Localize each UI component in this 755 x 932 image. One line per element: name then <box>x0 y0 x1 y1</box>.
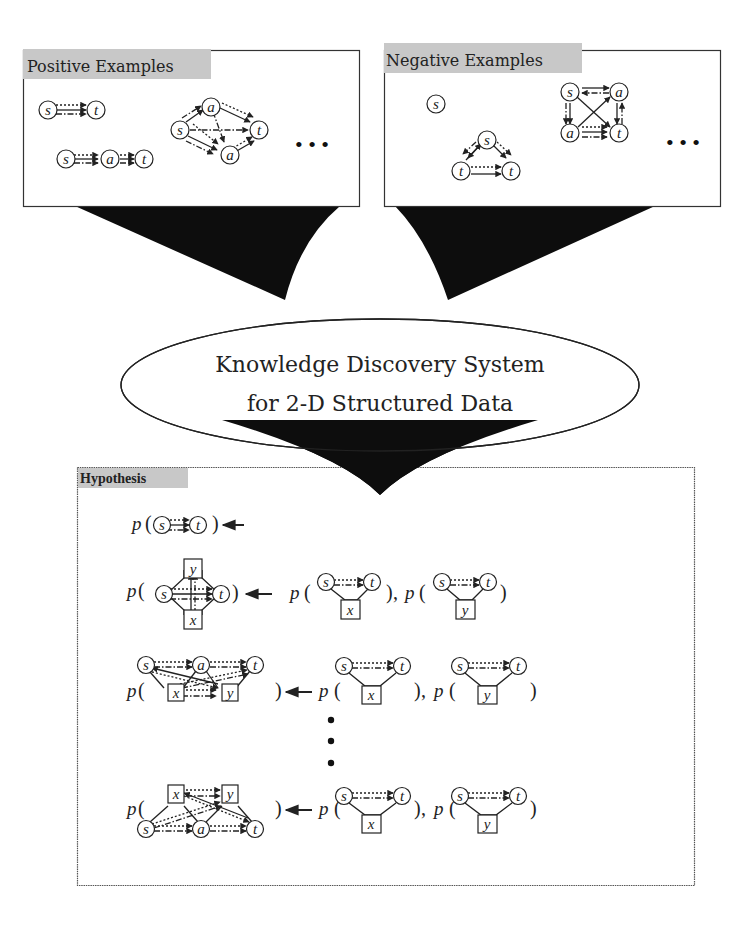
svg-text:,: , <box>421 679 426 701</box>
svg-text:): ) <box>530 679 537 702</box>
svg-text:(: ( <box>419 581 426 604</box>
svg-text:p: p <box>432 798 444 819</box>
svg-text:p: p <box>317 680 329 701</box>
svg-text:(: ( <box>138 797 145 820</box>
svg-text:(: ( <box>138 679 145 702</box>
svg-text:s: s <box>143 821 149 837</box>
svg-text:y: y <box>225 685 234 701</box>
svg-text:x: x <box>367 687 375 703</box>
svg-text:s: s <box>161 586 167 602</box>
svg-text:s: s <box>159 517 165 533</box>
svg-text:y: y <box>225 786 234 802</box>
hypothesis-title: Hypothesis <box>80 471 147 486</box>
system-title-line2: for 2-D Structured Data <box>247 391 513 416</box>
svg-text:y: y <box>482 816 491 832</box>
svg-text:p: p <box>125 680 137 701</box>
svg-text:): ) <box>275 679 282 702</box>
svg-text:s: s <box>433 96 439 112</box>
svg-text:(: ( <box>449 679 456 702</box>
negative-example-1: s <box>427 95 445 113</box>
hypothesis-rule-3: p ( s a t x y ) p ( s t <box>125 657 537 705</box>
svg-text:a: a <box>566 125 574 141</box>
svg-text:s: s <box>323 574 329 590</box>
positive-example-2: s a t <box>57 150 153 168</box>
svg-text:): ) <box>500 581 507 604</box>
svg-text:s: s <box>457 788 463 804</box>
svg-text:): ) <box>530 797 537 820</box>
svg-text:(: ( <box>138 579 145 602</box>
svg-text:s: s <box>341 788 347 804</box>
svg-text:p: p <box>125 798 137 819</box>
svg-text:,: , <box>393 581 398 603</box>
left-funnel <box>75 206 340 300</box>
svg-text:y: y <box>188 561 197 577</box>
negative-ellipsis: • • • <box>666 130 700 155</box>
svg-text:): ) <box>212 512 219 535</box>
svg-text:s: s <box>63 151 69 167</box>
svg-text:): ) <box>232 581 239 604</box>
svg-text:s: s <box>143 657 149 673</box>
svg-text:y: y <box>482 687 491 703</box>
diagram-canvas: Positive Examples s t s a t <box>0 0 755 932</box>
positive-title: Positive Examples <box>27 57 174 76</box>
svg-text:p: p <box>288 582 300 603</box>
bottom-funnel-tip <box>222 420 538 495</box>
svg-text:p: p <box>317 798 329 819</box>
svg-text:a: a <box>197 657 205 673</box>
svg-text:): ) <box>386 581 393 604</box>
right-funnel <box>395 206 655 300</box>
svg-text:s: s <box>457 658 463 674</box>
svg-text:a: a <box>226 147 234 163</box>
positive-examples-panel: Positive Examples s t s a t <box>23 49 360 207</box>
svg-text:a: a <box>207 99 215 115</box>
svg-text:x: x <box>346 602 354 618</box>
svg-text:x: x <box>367 816 375 832</box>
negative-title: Negative Examples <box>386 51 543 70</box>
svg-text:y: y <box>460 602 469 618</box>
svg-text:a: a <box>615 84 623 100</box>
positive-ellipsis: • • • <box>295 132 329 157</box>
svg-text:(: ( <box>334 679 341 702</box>
svg-text:p: p <box>130 513 142 534</box>
svg-text:,: , <box>421 797 426 819</box>
svg-text:): ) <box>414 679 421 702</box>
negative-examples-panel: Negative Examples s s t t <box>384 43 721 207</box>
svg-text:): ) <box>414 797 421 820</box>
system-title-line1: Knowledge Discovery System <box>215 352 544 377</box>
vertical-ellipsis <box>328 717 334 766</box>
svg-text:): ) <box>275 797 282 820</box>
svg-text:p: p <box>432 680 444 701</box>
svg-text:x: x <box>172 685 180 701</box>
svg-text:s: s <box>177 122 183 138</box>
svg-text:(: ( <box>145 512 152 535</box>
svg-text:x: x <box>189 612 197 628</box>
svg-text:a: a <box>106 151 114 167</box>
hypothesis-rule-4: p ( x y s a t ) p ( s t <box>125 785 537 838</box>
hypothesis-rule-2: p ( y x s t ) p ( s t x ) , p <box>125 559 507 629</box>
svg-text:s: s <box>45 102 51 118</box>
hypothesis-rule-1: p ( s t ) <box>130 512 244 535</box>
svg-text:a: a <box>197 821 205 837</box>
svg-text:s: s <box>567 84 573 100</box>
svg-text:p: p <box>125 580 137 601</box>
svg-text:x: x <box>172 786 180 802</box>
svg-text:(: ( <box>304 581 311 604</box>
svg-text:s: s <box>439 574 445 590</box>
svg-text:p: p <box>403 582 415 603</box>
svg-text:s: s <box>484 132 490 148</box>
svg-text:s: s <box>341 658 347 674</box>
